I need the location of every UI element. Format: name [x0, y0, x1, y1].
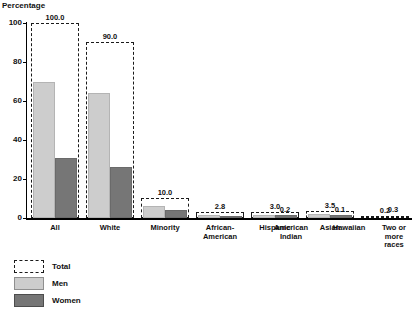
x-label-all: All	[31, 224, 79, 233]
total-value-hawaiian-label: 0.1	[335, 205, 345, 214]
legend-swatch-women-icon	[14, 294, 44, 307]
x-label-two-or-more-races-line3: races	[374, 241, 414, 250]
x-label-hawaiian: Hawaiian	[320, 224, 378, 233]
x-label-african-american: African- American	[196, 224, 244, 241]
legend-label-women: Women	[52, 296, 81, 305]
legend-label-men: Men	[52, 279, 68, 288]
total-value-two-or-more-label: 0.3	[388, 205, 398, 214]
x-label-two-or-more-races: Two or more races	[374, 224, 414, 250]
x-label-american-indian-line2: Indian	[261, 233, 321, 242]
x-label-minority-line1: Minority	[141, 224, 189, 233]
legend-label-total: Total	[52, 262, 71, 271]
legend-swatch-men-icon	[14, 277, 44, 290]
total-value-american-indian-label: 0.2	[280, 205, 290, 214]
x-label-white-line1: White	[86, 224, 134, 233]
x-label-american-indian: American Indian	[261, 224, 321, 241]
x-label-minority: Minority	[141, 224, 189, 233]
bar-chart: Percentage 100 80 60 40 20 0 100.0 90.0	[0, 0, 414, 322]
x-label-white: White	[86, 224, 134, 233]
legend-swatch-total-icon	[14, 260, 44, 273]
small-value-labels: 0.2 0.1 0.3	[0, 0, 414, 322]
x-label-all-line1: All	[31, 224, 79, 233]
x-label-hawaiian-line1: Hawaiian	[320, 224, 378, 233]
x-label-african-american-line2: American	[196, 233, 244, 242]
